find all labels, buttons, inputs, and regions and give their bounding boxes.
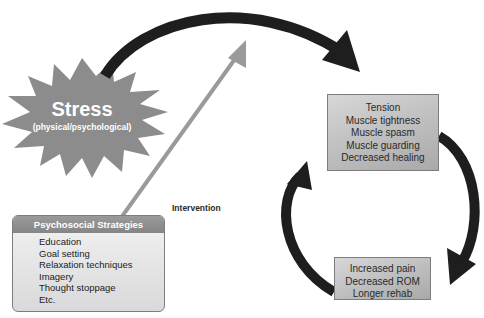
strategy-item: Imagery [39, 271, 164, 283]
effect-item: Muscle spasm [328, 127, 438, 140]
outcome-item: Decreased ROM [335, 276, 430, 289]
strategy-item: Etc. [39, 294, 164, 306]
effect-item: Decreased healing [328, 152, 438, 165]
physical-effects-box: Tension Muscle tightness Muscle spasm Mu… [327, 94, 439, 171]
stress-title: Stress [22, 98, 142, 120]
outcomes-box: Increased pain Decreased ROM Longer reha… [334, 257, 431, 300]
strategies-header: Psychosocial Strategies [13, 216, 164, 233]
strategy-item: Goal setting [39, 248, 164, 260]
strategy-item: Education [39, 236, 164, 248]
effect-item: Tension [328, 102, 438, 115]
effects-to-outcomes-arrow [439, 136, 475, 262]
outcome-item: Longer rehab [335, 288, 430, 301]
strategy-item: Thought stoppage [39, 282, 164, 294]
intervention-label: Intervention [172, 203, 221, 213]
strategy-item: Relaxation techniques [39, 259, 164, 271]
arrowhead-top-icon [322, 30, 360, 72]
effect-item: Muscle guarding [328, 140, 438, 153]
psychosocial-strategies-box: Psychosocial Strategies Education Goal s… [12, 215, 165, 312]
outcomes-to-effects-arrow [286, 176, 334, 292]
stress-cycle-diagram: Stress (physical/psychological) Interven… [0, 0, 484, 318]
effect-item: Muscle tightness [328, 115, 438, 128]
stress-to-effects-arrow [105, 18, 342, 76]
strategies-list: Education Goal setting Relaxation techni… [13, 233, 164, 306]
stress-subtitle: (physical/psychological) [12, 122, 152, 132]
outcome-item: Increased pain [335, 263, 430, 276]
